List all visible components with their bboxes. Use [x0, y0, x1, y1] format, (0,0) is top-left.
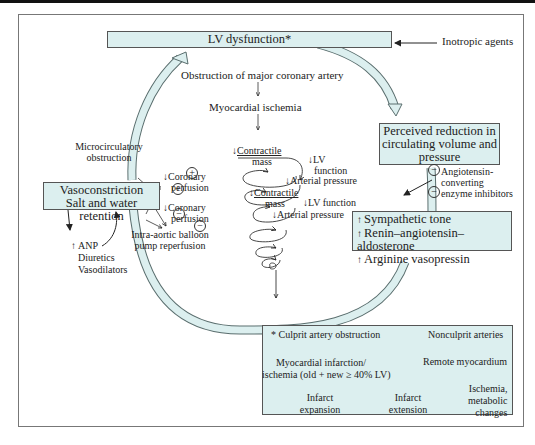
lv-dysfunction-label: LV dysfunction*: [208, 32, 292, 46]
vasoconstriction-box: Vasoconstriction Salt and water retentio…: [43, 182, 160, 210]
lv-function-2: ↓LV function: [303, 198, 356, 209]
inotropic-agents-label: Inotropic agents: [442, 36, 513, 48]
minus-sign-icon: −: [428, 186, 440, 198]
remote-myocardium-label: Remote myocardium: [423, 357, 507, 368]
neurohormonal-box: Sympathetic tone Renin–angiotensin–aldos…: [352, 211, 512, 251]
ischemia-metabolic-label: Ischemia, metabolic changes: [468, 383, 507, 419]
minus-sign-icon: −: [173, 208, 185, 220]
arterial-pressure-1: ↓Arterial pressure: [285, 176, 357, 187]
plus-sign-icon: +: [172, 183, 184, 195]
ace-inhibitors-label: Angiotensin- converting enzyme inhibitor…: [441, 166, 513, 199]
infarct-extension-label: Infarct extension: [383, 392, 433, 416]
minus-sign-icon: −: [428, 164, 440, 176]
lv-function-1: ↓LV function: [308, 155, 347, 176]
obstruction-label: Obstruction of major coronary artery: [181, 70, 344, 82]
myocardial-infarction-label: Myocardial infarction/ ischemia (old + n…: [262, 357, 380, 381]
left-modifiers: ↑ ANP Diuretics Vasodilators: [71, 240, 127, 276]
ischemia-label: Myocardial ischemia: [209, 102, 302, 114]
infarct-expansion-label: Infarct expansion: [290, 392, 350, 416]
culprit-artery-label: * Culprit artery obstruction: [271, 330, 380, 341]
plus-sign-icon: +: [186, 167, 198, 179]
contractile-mass-2: ↓Contractile mass: [249, 188, 298, 209]
nonculprit-arteries-label: Nonculprit arteries: [428, 330, 503, 341]
lv-dysfunction-box: LV dysfunction*: [107, 31, 392, 48]
contractile-mass-1: ↓Contractile mass: [232, 146, 281, 167]
microcirculatory-obstruction-label: Microcirculatory obstruction: [64, 142, 154, 163]
arterial-pressure-2: ↓Arterial pressure: [272, 210, 344, 221]
iabp-label: Intra-aortic balloon pump reperfusion: [120, 230, 220, 251]
minus-sign-icon: −: [194, 220, 206, 232]
perceived-reduction-box: Perceived reduction in circulating volum…: [379, 123, 500, 165]
